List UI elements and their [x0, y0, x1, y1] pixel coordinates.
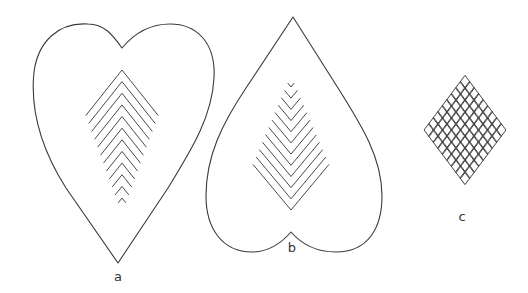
panel-c: c	[424, 75, 506, 224]
chevron-a	[107, 151, 138, 170]
chevron-b	[266, 135, 316, 165]
chevron-a	[98, 117, 146, 147]
chevron-hatch-b	[253, 83, 328, 210]
chevron-b	[282, 98, 301, 109]
chevron-b	[285, 91, 297, 98]
heart-a-outline	[33, 24, 214, 263]
chevron-b	[256, 157, 325, 198]
chevron-a	[95, 105, 149, 139]
panel-b: b	[206, 17, 382, 255]
label-c: c	[458, 209, 465, 224]
chevron-b	[260, 150, 323, 188]
chevron-b	[279, 106, 304, 121]
chevron-a	[110, 163, 135, 179]
panel-a: a	[33, 24, 214, 284]
diagram-figure: a b c	[0, 0, 528, 293]
chevron-a	[118, 198, 125, 203]
chevron-b	[275, 113, 306, 132]
label-a: a	[114, 269, 122, 284]
chevron-b	[263, 143, 319, 177]
chevron-a	[113, 175, 132, 187]
diamond-lattice-c	[424, 75, 506, 184]
label-b: b	[288, 240, 296, 255]
chevron-hatch-a	[86, 70, 158, 203]
chevron-a	[115, 186, 128, 194]
heart-b-outline	[206, 17, 382, 252]
chevron-b	[288, 83, 294, 87]
chevron-a	[92, 93, 152, 131]
